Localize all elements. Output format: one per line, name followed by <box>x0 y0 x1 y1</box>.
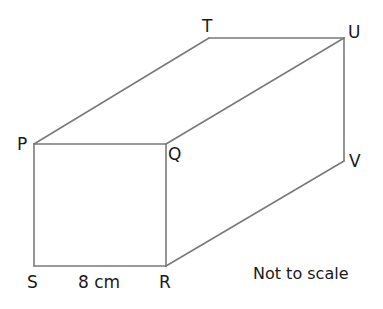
vertex-label-s: S <box>27 272 38 292</box>
vertex-label-v: V <box>349 151 361 171</box>
cuboid-diagram: P Q R S T U V 8 cm Not to scale <box>0 0 383 309</box>
edge-qu <box>166 38 344 144</box>
not-to-scale-note: Not to scale <box>253 264 349 283</box>
edge-rv <box>166 161 344 266</box>
vertex-labels: P Q R S T U V <box>17 16 361 292</box>
vertex-label-q: Q <box>168 144 181 164</box>
vertex-label-t: T <box>201 16 213 36</box>
dimension-label-sr: 8 cm <box>78 272 120 292</box>
vertex-label-p: P <box>17 134 27 154</box>
edge-pt <box>34 38 209 144</box>
vertex-label-u: U <box>348 22 360 42</box>
cuboid-edges <box>34 38 344 266</box>
vertex-label-r: R <box>159 272 171 292</box>
